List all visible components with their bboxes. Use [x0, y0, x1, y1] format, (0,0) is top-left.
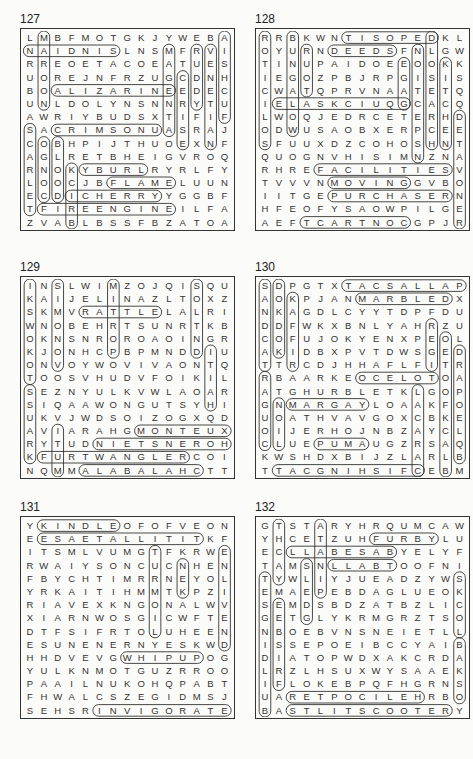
- grid-letter: U: [176, 651, 190, 664]
- grid-letter: A: [37, 44, 51, 57]
- grid-letter: M: [65, 545, 79, 558]
- grid-letter: I: [272, 57, 286, 70]
- grid-letter: E: [162, 176, 176, 189]
- grid-letter: B: [65, 216, 79, 229]
- grid-letter: K: [300, 31, 314, 44]
- grid-letter: D: [120, 110, 134, 123]
- grid-letter: M: [134, 424, 148, 437]
- grid-letter: I: [383, 464, 397, 477]
- grid-letter: I: [176, 532, 190, 545]
- grid-letter: H: [79, 572, 93, 585]
- grid-letter: L: [327, 305, 341, 318]
- grid-letter: Q: [369, 677, 383, 690]
- grid-letter: A: [92, 424, 106, 437]
- grid-letter: W: [23, 319, 37, 332]
- grid-letter: I: [79, 585, 93, 598]
- grid-letter: R: [120, 189, 134, 202]
- grid-letter: N: [37, 97, 51, 110]
- grid-letter: L: [411, 279, 425, 292]
- grid-letter: V: [120, 358, 134, 371]
- grid-letter: O: [286, 625, 300, 638]
- grid-letter: L: [286, 545, 300, 558]
- grid-letter: W: [272, 110, 286, 123]
- grid-letter: A: [411, 424, 425, 437]
- grid-letter: B: [327, 545, 341, 558]
- grid-letter: N: [314, 44, 328, 57]
- grid-letter: B: [23, 84, 37, 97]
- grid-letter: T: [300, 216, 314, 229]
- grid-letter: A: [439, 519, 453, 532]
- grid-letter: O: [397, 137, 411, 150]
- grid-letter: A: [51, 677, 65, 690]
- grid-letter: A: [341, 411, 355, 424]
- grid-letter: X: [314, 137, 328, 150]
- grid-letter: I: [79, 123, 93, 136]
- grid-letter: E: [383, 110, 397, 123]
- grid-letter: I: [51, 292, 65, 305]
- grid-letter: F: [190, 110, 204, 123]
- grid-letter: J: [314, 110, 328, 123]
- grid-letter: M: [148, 345, 162, 358]
- grid-letter: V: [355, 411, 369, 424]
- grid-letter: H: [272, 163, 286, 176]
- grid-letter: N: [134, 638, 148, 651]
- grid-letter: Z: [383, 450, 397, 463]
- grid-letter: T: [106, 305, 120, 318]
- grid-letter: F: [23, 690, 37, 703]
- grid-letter: D: [314, 305, 328, 318]
- grid-letter: O: [162, 411, 176, 424]
- grid-letter: I: [106, 572, 120, 585]
- grid-letter: D: [439, 651, 453, 664]
- grid-letter: O: [204, 651, 218, 664]
- grid-letter: Q: [452, 97, 466, 110]
- grid-letter: P: [79, 137, 93, 150]
- grid-letter: Y: [272, 572, 286, 585]
- grid-letter: A: [176, 385, 190, 398]
- grid-letter: A: [369, 545, 383, 558]
- grid-letter: Q: [383, 519, 397, 532]
- grid-letter: O: [148, 424, 162, 437]
- grid-letter: H: [411, 690, 425, 703]
- grid-letter: J: [327, 358, 341, 371]
- grid-letter: L: [190, 598, 204, 611]
- grid-letter: U: [258, 411, 272, 424]
- grid-letter: A: [204, 123, 218, 136]
- grid-letter: T: [286, 189, 300, 202]
- grid-letter: T: [397, 110, 411, 123]
- grid-letter: N: [92, 437, 106, 450]
- grid-letter: R: [176, 704, 190, 717]
- grid-letter: C: [369, 704, 383, 717]
- grid-letter: G: [383, 585, 397, 598]
- grid-letter: B: [120, 464, 134, 477]
- grid-letter: J: [355, 424, 369, 437]
- grid-letter: A: [425, 97, 439, 110]
- grid-letter: F: [217, 189, 231, 202]
- grid-letter: K: [23, 292, 37, 305]
- grid-letter: O: [452, 611, 466, 624]
- grid-letter: U: [148, 664, 162, 677]
- grid-letter: U: [369, 97, 383, 110]
- grid-letter: S: [439, 611, 453, 624]
- grid-letter: E: [106, 189, 120, 202]
- grid-letter: L: [314, 704, 328, 717]
- grid-letter: E: [286, 202, 300, 215]
- grid-letter: S: [355, 625, 369, 638]
- grid-letter: T: [162, 585, 176, 598]
- grid-letter: A: [65, 424, 79, 437]
- grid-letter: N: [204, 137, 218, 150]
- grid-letter: N: [23, 464, 37, 477]
- grid-letter: A: [439, 437, 453, 450]
- grid-letter: F: [106, 71, 120, 84]
- grid-letter: M: [51, 305, 65, 318]
- grid-letter: I: [217, 585, 231, 598]
- grid-letter: F: [383, 358, 397, 371]
- grid-letter: T: [341, 279, 355, 292]
- grid-letter: I: [439, 638, 453, 651]
- grid-letter: B: [452, 638, 466, 651]
- grid-letter: R: [23, 559, 37, 572]
- grid-letter: R: [272, 31, 286, 44]
- grid-letter: M: [272, 585, 286, 598]
- grid-letter: D: [355, 651, 369, 664]
- grid-letter: S: [106, 44, 120, 57]
- grid-letter: B: [425, 411, 439, 424]
